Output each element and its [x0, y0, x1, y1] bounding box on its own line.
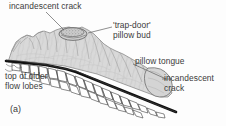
pillow-lava-illustration: [0, 0, 226, 126]
label-trap-door-line1: 'trap-door': [113, 20, 151, 30]
leader-trap-door: [88, 27, 112, 33]
label-top-of-older-flow-lobes: top of olderflow lobes: [5, 72, 48, 91]
label-pillow-tongue: pillow tongue: [135, 57, 185, 67]
leader-incandescent-top: [46, 12, 64, 30]
label-incandescent-crack-top: incandescent crack: [9, 2, 82, 12]
label-incandescent-right-line2: crack: [164, 83, 184, 93]
figure-pillow-lava-diagram: incandescent crack 'trap-door'pillow bud…: [0, 0, 226, 126]
label-trap-door-pillow-bud: 'trap-door'pillow bud: [113, 21, 151, 40]
pillow-bud-trap-door-lid: [61, 28, 84, 37]
label-top-older-line1: top of older: [5, 71, 48, 81]
figure-caption-a: (a): [10, 104, 21, 114]
label-incandescent-crack-right: incandescentcrack: [164, 74, 214, 93]
label-trap-door-line2: pillow bud: [113, 30, 151, 40]
label-incandescent-right-line1: incandescent: [164, 73, 214, 83]
label-top-older-line2: flow lobes: [5, 81, 43, 91]
